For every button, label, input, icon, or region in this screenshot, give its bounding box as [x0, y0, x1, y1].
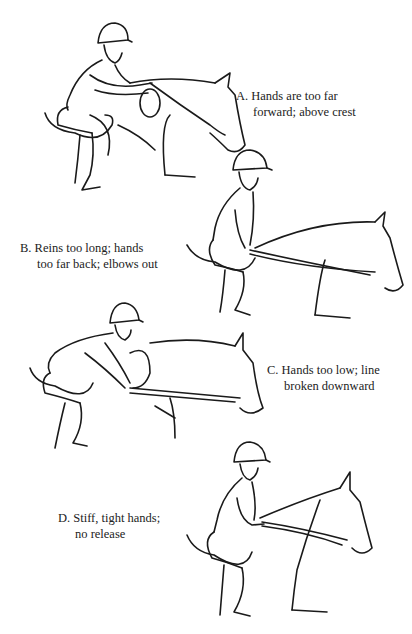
caption-a-line2: forward; above crest [236, 104, 356, 120]
caption-c-line2: broken downward [267, 378, 380, 394]
figure-b-illustration [175, 150, 400, 320]
caption-d-line2: no release [58, 526, 160, 542]
caption-b-line1: B. Reins too long; hands [20, 240, 158, 256]
rider-horse-drawing-b [175, 150, 400, 320]
caption-a: A. Hands are too far forward; above cres… [236, 88, 356, 120]
rider-horse-drawing-d [172, 440, 387, 630]
rider-horse-drawing-c [25, 298, 265, 458]
figure-c-illustration [25, 298, 265, 458]
caption-c: C. Hands too low; line broken downward [267, 362, 380, 394]
figure-d-illustration [172, 440, 387, 630]
caption-b: B. Reins too long; hands too far back; e… [20, 240, 158, 272]
caption-c-line1: C. Hands too low; line [267, 362, 380, 378]
caption-b-line2: too far back; elbows out [20, 256, 158, 272]
caption-a-line1: A. Hands are too far [236, 88, 356, 104]
caption-d-line1: D. Stiff, tight hands; [58, 510, 160, 526]
caption-d: D. Stiff, tight hands; no release [58, 510, 160, 542]
